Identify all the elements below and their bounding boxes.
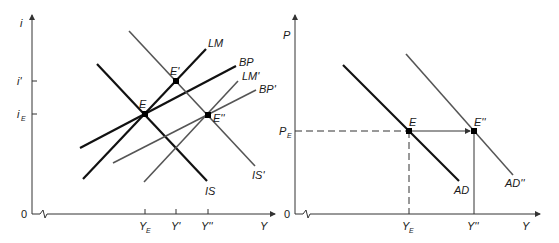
tick-subscript: E: [146, 227, 151, 234]
curve-ad-double-prime: AD'': [406, 54, 525, 189]
curve-label: LM: [208, 37, 224, 49]
curve-label: BP: [239, 56, 254, 68]
point-label: E'': [474, 116, 486, 128]
right-x-axis-label: Y: [522, 220, 530, 232]
tick-label: Y'': [467, 220, 479, 232]
curve-lm-prime: LM': [144, 70, 260, 182]
left-x-tick-y-prime: Y': [171, 209, 181, 232]
right-y-axis-label: P: [283, 29, 291, 41]
point-e-double-prime-right: E'': [471, 116, 486, 134]
left-x-axis-label: Y: [260, 220, 268, 232]
point-label: E: [409, 116, 417, 128]
point-label: E': [170, 65, 180, 77]
tick-subscript: E: [409, 227, 414, 234]
left-axes: i Y 0: [20, 15, 275, 232]
point-e-double-prime: E'': [205, 112, 225, 124]
curve-bp: BP: [80, 56, 254, 148]
right-y-tick-p-e: P E: [279, 125, 409, 139]
left-x-axis-with-break: [32, 210, 275, 218]
tick-label: P: [279, 125, 287, 137]
right-x-tick-y-double-prime: Y'': [467, 131, 479, 232]
left-y-tick-i-prime: i': [17, 75, 37, 87]
tick-subscript: E: [287, 132, 292, 139]
curve-label: IS': [252, 169, 265, 181]
tick-label: Y': [171, 220, 181, 232]
left-y-tick-i-e: i E: [17, 108, 37, 122]
right-x-tick-y-e: Y E: [402, 131, 414, 234]
right-x-axis-with-break: [295, 210, 540, 218]
point-label: E'': [213, 112, 225, 124]
right-origin-label: 0: [284, 208, 290, 220]
curve-label: BP': [259, 83, 277, 95]
tick-label: i: [17, 108, 20, 120]
tick-subscript: E: [21, 115, 26, 122]
point-e-prime: E': [170, 65, 180, 84]
left-x-tick-y-double-prime: Y'': [201, 209, 213, 232]
right-panel-ad: P Y 0 P E Y E Y'' AD AD'': [279, 15, 540, 234]
left-panel-islmbp: i Y 0 i' i E Y E Y' Y'': [17, 15, 277, 234]
diagram-canvas: i Y 0 i' i E Y E Y' Y'': [0, 0, 559, 243]
curve-label: AD'': [504, 177, 525, 189]
curve-bp-prime: BP': [113, 83, 277, 163]
tick-label: i': [17, 75, 22, 87]
point-label: E: [139, 98, 147, 110]
curve-is-prime: IS': [129, 31, 265, 181]
left-x-tick-y-e: Y E: [139, 209, 151, 234]
point-e: E: [139, 98, 148, 117]
curve-label: IS: [205, 185, 216, 197]
left-y-axis-label: i: [20, 17, 23, 29]
tick-label: Y'': [201, 220, 213, 232]
curve-label: LM': [242, 70, 260, 82]
left-origin-label: 0: [21, 208, 27, 220]
curve-label: AD: [453, 184, 469, 196]
